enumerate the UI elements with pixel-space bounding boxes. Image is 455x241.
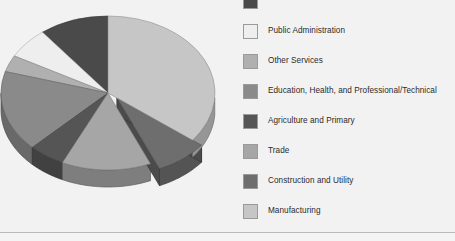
legend-label-2: Other Services bbox=[268, 56, 323, 66]
legend-item[interactable]: Public Administration bbox=[243, 16, 455, 46]
legend-swatch-0 bbox=[243, 0, 258, 9]
pie-chart-svg bbox=[0, 0, 235, 215]
legend-label-5: Trade bbox=[268, 146, 289, 156]
legend-swatch-7 bbox=[243, 204, 258, 219]
legend-swatch-5 bbox=[243, 144, 258, 159]
legend-item[interactable]: Education, Health, and Professional/Tech… bbox=[243, 76, 455, 106]
legend-label-3: Education, Health, and Professional/Tech… bbox=[268, 86, 437, 96]
pie-chart-area bbox=[0, 0, 235, 215]
legend-label-7: Manufacturing bbox=[268, 206, 321, 216]
legend-swatch-1 bbox=[243, 24, 258, 39]
legend-item[interactable]: Other Services bbox=[243, 46, 455, 76]
pie-top-faces bbox=[1, 16, 215, 170]
legend-label-6: Construction and Utility bbox=[268, 176, 353, 186]
pie-chart-panel: Public Administration Other Services Edu… bbox=[0, 0, 455, 241]
legend-swatch-2 bbox=[243, 54, 258, 69]
bottom-strip bbox=[0, 233, 455, 241]
legend-item[interactable]: Trade bbox=[243, 136, 455, 166]
legend-label-1: Public Administration bbox=[268, 26, 345, 36]
legend-swatch-6 bbox=[243, 174, 258, 189]
legend-swatch-3 bbox=[243, 84, 258, 99]
legend-item[interactable] bbox=[243, 0, 455, 16]
legend-item[interactable]: Manufacturing bbox=[243, 196, 455, 226]
legend-item[interactable]: Agriculture and Primary bbox=[243, 106, 455, 136]
legend-label-4: Agriculture and Primary bbox=[268, 116, 355, 126]
legend-item[interactable]: Construction and Utility bbox=[243, 166, 455, 196]
chart-legend: Public Administration Other Services Edu… bbox=[243, 0, 455, 226]
pie-slices-group bbox=[1, 16, 215, 187]
legend-swatch-4 bbox=[243, 114, 258, 129]
